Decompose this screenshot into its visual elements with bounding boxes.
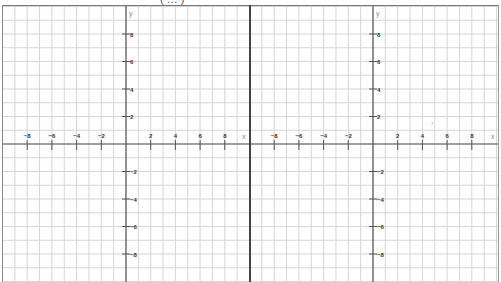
x-tick-label: 2 [149, 133, 153, 139]
x-tick-label: 2 [396, 133, 400, 139]
right-coordinate-grid: −8−6−4−224688642−2−4−6−8xy [251, 5, 498, 282]
y-axis-name: y [376, 10, 380, 18]
y-tick-label: −8 [377, 252, 385, 258]
x-tick-label: 4 [421, 133, 425, 139]
right-grid-svg: −8−6−4−224688642−2−4−6−8xy [251, 5, 498, 282]
x-axis-name: x [242, 133, 246, 140]
x-axis-name: x [491, 133, 495, 140]
frame-left-border [2, 5, 3, 282]
x-tick-label: 8 [223, 133, 227, 139]
y-tick-label: −2 [130, 169, 138, 175]
x-tick-label: −4 [73, 133, 81, 139]
y-tick-label: −8 [130, 252, 138, 258]
faint-dot [431, 123, 433, 125]
y-tick-label: −4 [377, 197, 385, 203]
y-tick-label: −2 [377, 169, 385, 175]
y-tick-label: −6 [377, 224, 385, 230]
y-tick-label: −4 [130, 197, 138, 203]
x-tick-label: −2 [98, 133, 106, 139]
x-tick-label: 8 [470, 133, 474, 139]
x-tick-label: −8 [271, 133, 279, 139]
x-tick-label: 4 [174, 133, 178, 139]
left-coordinate-grid: −8−6−4−224688642−2−4−6−8xy [3, 5, 249, 282]
x-tick-label: −6 [295, 133, 303, 139]
x-tick-label: −8 [24, 133, 32, 139]
x-tick-label: 6 [198, 133, 202, 139]
y-axis-name: y [129, 10, 133, 18]
x-tick-label: −2 [345, 133, 353, 139]
x-tick-label: 6 [445, 133, 449, 139]
x-tick-label: −6 [48, 133, 56, 139]
y-tick-label: −6 [130, 224, 138, 230]
frame-right-border [498, 5, 499, 282]
left-grid-svg: −8−6−4−224688642−2−4−6−8xy [3, 5, 249, 282]
panel-divider [249, 5, 251, 282]
x-tick-label: −4 [320, 133, 328, 139]
